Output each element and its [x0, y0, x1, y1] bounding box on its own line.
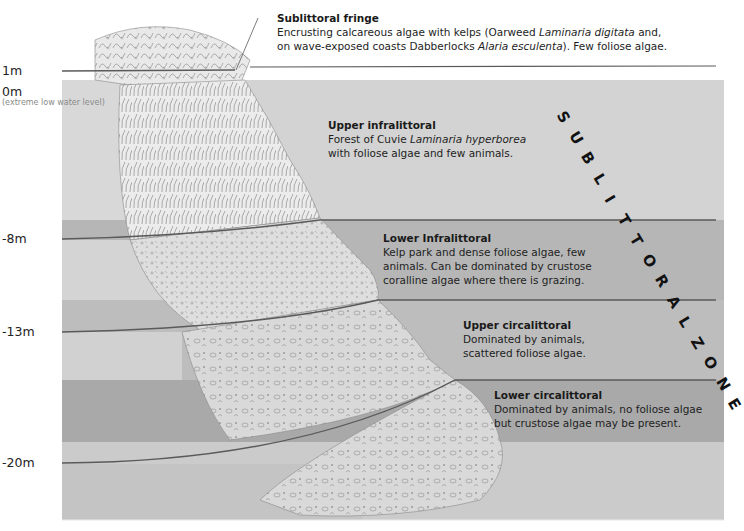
zone-description: Forest of Cuvie Laminaria hyperborea wit… [328, 132, 558, 160]
depth-label-20m: -20m [2, 455, 35, 470]
zone-description: scattered foliose algae. [463, 346, 643, 360]
zone-description: coralline algae where there is grazing. [383, 273, 623, 287]
zone-description: Dominated by animals, no foliose algae [494, 402, 724, 416]
zone-description: but crustose algae may be present. [494, 416, 724, 430]
depth-note-extreme-low-water: (extreme low water level) [2, 98, 105, 107]
zone-title: Lower Infralittoral [383, 231, 623, 245]
depth-label-0m: 0m [2, 84, 22, 99]
zone-title: Upper circalittoral [463, 318, 643, 332]
zone-description: Kelp park and dense foliose algae, few [383, 245, 623, 259]
zone-title: Upper infralittoral [328, 118, 558, 132]
zone-upper-infralittoral: Upper infralittoral Forest of Cuvie Lami… [328, 118, 558, 160]
depth-label-8m: -8m [2, 231, 27, 246]
zone-sublittoral-fringe: Sublittoral fringe Encrusting calcareous… [277, 11, 717, 53]
zone-upper-circalittoral: Upper circalittoral Dominated by animals… [463, 318, 643, 360]
zone-description: Dominated by animals, [463, 332, 643, 346]
depth-label-13m: -13m [2, 324, 35, 339]
zone-lower-infralittoral: Lower Infralittoral Kelp park and dense … [383, 231, 623, 287]
zone-description: Encrusting calcareous algae with kelps (… [277, 25, 717, 53]
zone-title: Lower circalittoral [494, 388, 724, 402]
sublittoral-zone-letter: E [724, 395, 744, 413]
zone-description: animals. Can be dominated by crustose [383, 259, 623, 273]
zone-lower-circalittoral: Lower circalittoral Dominated by animals… [494, 388, 724, 430]
depth-label-1m: 1m [2, 63, 22, 78]
zone-title: Sublittoral fringe [277, 11, 717, 25]
